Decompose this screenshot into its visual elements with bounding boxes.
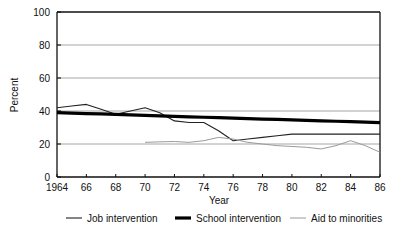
x-tick-label: 70	[140, 182, 152, 193]
y-tick-label: 0	[44, 172, 50, 183]
x-tick-label: 82	[316, 182, 328, 193]
x-tick-label: 86	[374, 182, 386, 193]
legend-item[interactable]: Job intervention	[66, 213, 158, 224]
series-line	[57, 113, 380, 123]
legend-label: Aid to minorities	[311, 213, 382, 224]
x-tick-label: 80	[286, 182, 298, 193]
x-axis-title: Year	[209, 195, 230, 206]
y-tick-label: 40	[39, 106, 51, 117]
series-line	[145, 137, 380, 152]
plot-frame	[57, 12, 380, 177]
y-tick-label: 100	[33, 7, 50, 18]
x-tick-label: 66	[81, 182, 93, 193]
legend-item[interactable]: School intervention	[175, 213, 281, 224]
x-tick-label: 78	[257, 182, 269, 193]
x-tick-label: 84	[345, 182, 357, 193]
chart-container: 020406080100 19646668707274767880828486 …	[0, 0, 399, 236]
legend-item[interactable]: Aid to minorities	[290, 213, 382, 224]
x-tick-label: 76	[228, 182, 240, 193]
y-axis-title: Percent	[9, 78, 20, 113]
legend-label: Job intervention	[87, 213, 158, 224]
y-tick-label: 80	[39, 40, 51, 51]
x-tick-labels: 19646668707274767880828486	[46, 182, 386, 193]
x-tick-label: 1964	[46, 182, 69, 193]
x-tick-label: 74	[198, 182, 210, 193]
line-chart-figure: 020406080100 19646668707274767880828486 …	[0, 0, 399, 236]
y-tick-label: 60	[39, 73, 51, 84]
legend-label: School intervention	[196, 213, 281, 224]
gridlines-group	[57, 45, 380, 144]
data-series-group	[57, 104, 380, 152]
y-tick-label: 20	[39, 139, 51, 150]
x-tick-label: 72	[169, 182, 181, 193]
legend: Job interventionSchool interventionAid t…	[66, 213, 382, 224]
y-tick-labels: 020406080100	[33, 7, 50, 183]
x-tick-label: 68	[110, 182, 122, 193]
